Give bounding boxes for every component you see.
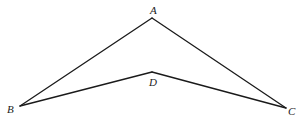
segment-dc [152,72,286,108]
point-label-a: A [149,4,157,16]
geometry-diagram: A B C D [0,0,299,123]
point-label-b: B [7,103,14,115]
segment-bd [20,72,152,106]
segment-ac [152,18,286,108]
point-label-c: C [288,105,296,117]
segment-ab [20,18,152,106]
point-label-d: D [148,76,157,88]
